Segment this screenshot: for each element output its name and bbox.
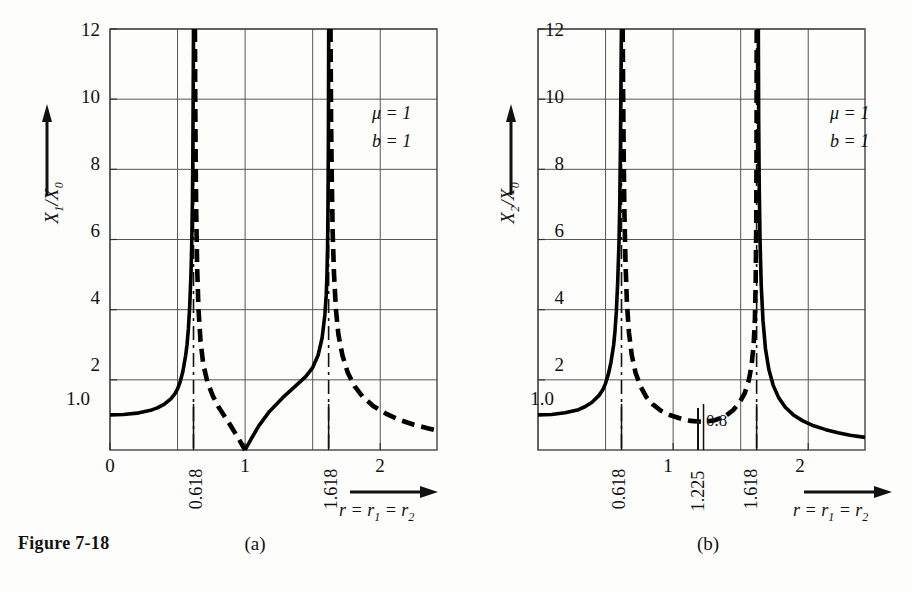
y-tick-label: 4 [56,288,100,307]
parameter-annotation-a: μ = 1 b = 1 [372,100,411,156]
param-b: b = 1 [372,128,411,156]
parameter-annotation-b: μ = 1 b = 1 [830,100,869,156]
curve-dashed-branch-2 [331,29,437,430]
data-curves-b [538,29,865,437]
y-tick-label: 1.0 [46,389,90,408]
panel-letter-a: (a) [225,533,285,555]
grid-lines-a [110,29,437,450]
x-axis-caption-b: r = r1 = r2 [793,500,868,525]
y-tick-label: 2 [520,355,564,374]
x-tick-label: 1 [648,456,688,475]
param-mu: μ = 1 [830,100,869,128]
x-tick-label-rotated: 1.618 [742,459,760,519]
param-b: b = 1 [830,128,869,156]
x-tick-label-rotated: 0.618 [610,459,628,519]
x-tick-label: 0 [90,456,130,475]
x-tick-label: 2 [780,456,820,475]
y-tick-label: 8 [520,154,564,173]
y-tick-label: 12 [56,20,100,39]
y-tick-label: 6 [56,221,100,240]
y-tick-label: 8 [56,154,100,173]
x-tick-label-rotated: 1.225 [689,461,707,521]
curve-solid-branch-2 [758,29,865,437]
y-tick-label: 12 [520,20,564,39]
chart-panel-a: X1/X0 12 10 8 6 4 2 1.0 0 1 2 0.618 1.61… [0,0,456,592]
grid-lines-b [538,29,865,450]
x-axis-arrow-a [350,486,438,498]
minimum-value-annotation: 0.8 [706,411,727,431]
y-tick-label: 4 [520,288,564,307]
x-tick-label: 1 [225,456,265,475]
chart-panel-b: X2/X0 12 10 8 6 4 2 1.0 1 2 0.618 1.225 … [456,0,912,592]
curve-solid-branch-1 [110,29,194,415]
y-tick-label: 6 [520,221,564,240]
curve-dashed-branch-1 [623,29,757,422]
param-mu: μ = 1 [372,100,411,128]
x-tick-label-rotated: 0.618 [187,459,205,519]
y-tick-label: 10 [56,87,100,106]
x-tick-label: 2 [360,456,400,475]
x-axis-arrow-b [804,486,892,498]
figure-caption: Figure 7-18 [18,533,109,554]
panel-letter-b: (b) [678,533,738,555]
y-tick-label: 1.0 [510,389,554,408]
y-tick-label: 2 [56,355,100,374]
figure-root: X1/X0 12 10 8 6 4 2 1.0 0 1 2 0.618 1.61… [0,0,912,592]
y-tick-label: 10 [520,87,564,106]
x-tick-label-rotated: 1.618 [322,459,340,519]
x-axis-caption-a: r = r1 = r2 [339,500,414,525]
